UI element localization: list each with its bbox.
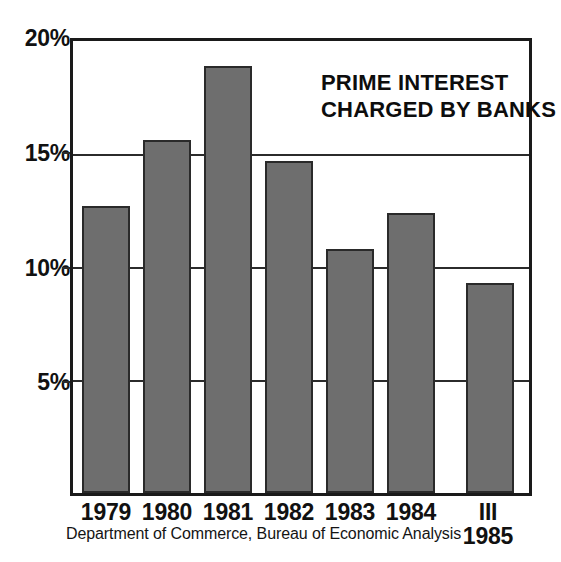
y-tick-label-10: 10% [6,257,70,280]
bar-1984 [387,213,435,493]
x-tick-label-iii: III [479,499,498,525]
y-tick-label-15: 15% [6,142,70,165]
bar-iii-1985 [466,283,514,493]
y-tick-label-20: 20% [6,27,70,50]
chart-title: PRIME INTEREST CHARGED BY BANKS [321,69,531,123]
bar-1981 [204,66,252,493]
y-tick-label-5: 5% [6,371,70,394]
plot-area: PRIME INTEREST CHARGED BY BANKS [70,38,532,496]
bar-1980 [143,140,191,493]
gridline-15 [73,154,529,156]
bar-1983 [326,249,374,493]
bar-1979 [82,206,130,493]
chart-screenshot: 20% 15% 10% 5% PRIME INTEREST CHARGED BY… [0,0,561,562]
y-axis: 20% 15% 10% 5% [0,0,70,562]
chart-title-line-1: PRIME INTEREST [321,69,531,96]
bar-1982 [265,161,313,493]
chart-title-line-2: CHARGED BY BANKS [321,96,531,123]
source-note: Department of Commerce, Bureau of Econom… [66,525,461,543]
